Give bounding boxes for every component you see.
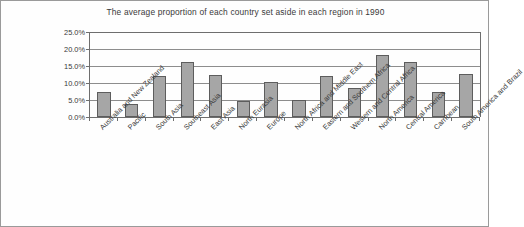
x-axis-label-europe: Europe bbox=[265, 125, 271, 131]
x-tick-mark bbox=[340, 117, 341, 121]
x-tick-mark bbox=[479, 117, 480, 121]
x-axis-label-eastern-and-southern-africa: Eastern and Southern Africa bbox=[321, 125, 327, 131]
bar bbox=[153, 76, 166, 117]
y-tick-label: 5.0% bbox=[41, 96, 85, 105]
y-tick-mark bbox=[86, 49, 89, 50]
x-axis-label-southeast-asia: Southeast Asia bbox=[181, 125, 187, 131]
x-axis-label-western-and-central-africa: Western and Central Africa bbox=[348, 125, 354, 131]
chart-title: The average proportion of each country s… bbox=[1, 7, 490, 17]
x-axis-label-central-america: Central America bbox=[404, 125, 410, 131]
x-tick-mark bbox=[368, 117, 369, 121]
x-tick-mark bbox=[89, 117, 90, 121]
x-axis-label-carribean: Carribean bbox=[432, 125, 438, 131]
x-axis-label-north-america: North America bbox=[376, 125, 382, 131]
x-tick-mark bbox=[423, 117, 424, 121]
x-axis-label-pacific: Pacific bbox=[126, 125, 132, 131]
y-tick-label: 15.0% bbox=[41, 62, 85, 71]
y-tick-label: 25.0% bbox=[41, 28, 85, 37]
x-tick-mark bbox=[228, 117, 229, 121]
x-tick-mark bbox=[173, 117, 174, 121]
gridline-20-0 bbox=[90, 49, 480, 50]
x-axis-label-north-africa-and-middle-east: North Africa and Middle East bbox=[293, 125, 299, 131]
x-axis-label-east-asia: East Asia bbox=[209, 125, 215, 131]
bar bbox=[459, 74, 472, 117]
gridline-5-0 bbox=[90, 100, 480, 101]
y-tick-mark bbox=[86, 66, 89, 67]
y-tick-mark bbox=[86, 83, 89, 84]
y-tick-label: 20.0% bbox=[41, 45, 85, 54]
y-tick-label: 10.0% bbox=[41, 79, 85, 88]
x-tick-mark bbox=[312, 117, 313, 121]
x-axis-label-south-asia: South Asia bbox=[153, 125, 159, 131]
gridline-15-0 bbox=[90, 66, 480, 67]
x-tick-mark bbox=[145, 117, 146, 121]
x-axis-label-south-america-and-brazil: South America and Brazil bbox=[460, 125, 466, 131]
y-tick-mark bbox=[86, 100, 89, 101]
y-tick-mark bbox=[86, 32, 89, 33]
x-tick-mark bbox=[200, 117, 201, 121]
x-axis-label-north-eurasia: North Eurasia bbox=[237, 125, 243, 131]
x-tick-mark bbox=[256, 117, 257, 121]
x-tick-mark bbox=[284, 117, 285, 121]
gridline-25-0 bbox=[90, 32, 480, 33]
x-axis-label-australia-and-new-zealand: Australia and New Zealand bbox=[98, 125, 104, 131]
y-tick-label: 0.0% bbox=[41, 113, 85, 122]
y-axis-tick-labels: 0.0%5.0%10.0%15.0%20.0%25.0% bbox=[39, 32, 85, 117]
x-tick-mark bbox=[117, 117, 118, 121]
x-tick-mark bbox=[395, 117, 396, 121]
x-tick-mark bbox=[451, 117, 452, 121]
